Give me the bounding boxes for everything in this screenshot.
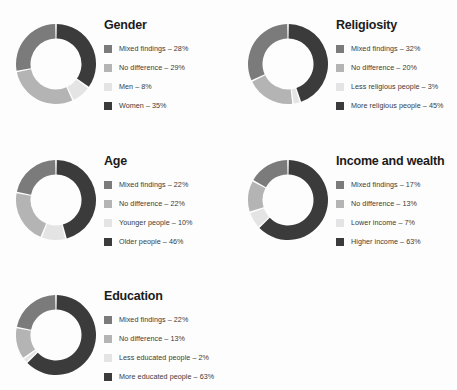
legend-swatch-less-educated-people: [104, 354, 112, 362]
legend-swatch-mixed-findings: [104, 181, 112, 189]
legend-label: Mixed findings – 22%: [119, 315, 188, 324]
chart-title: Religiosity: [336, 18, 443, 32]
legend-swatch-higher-income: [336, 238, 344, 246]
legend-label: No difference – 13%: [119, 334, 185, 343]
donut-segment: [16, 24, 55, 71]
legend-item: No difference – 13%: [336, 194, 444, 213]
legend-swatch-no-difference: [336, 200, 344, 208]
legend-label: No difference – 29%: [119, 63, 185, 72]
legend-item: Men – 8%: [104, 77, 188, 96]
donut-segment: [248, 24, 287, 80]
legend-income-and-wealth: Income and wealth Mixed findings – 17% N…: [336, 150, 444, 251]
donut-chart-gender: [8, 14, 104, 126]
legend-item: Less religious people – 3%: [336, 77, 443, 96]
legend-item: Higher income – 63%: [336, 232, 444, 251]
legend-swatch-mixed-findings: [104, 316, 112, 324]
legend-swatch-women: [104, 102, 112, 110]
legend-label: Less religious people – 3%: [351, 82, 438, 91]
legend-label: Women – 35%: [119, 101, 167, 110]
donut-segment: [253, 160, 287, 187]
legend-item: Older people – 46%: [104, 232, 192, 251]
legend-swatch-more-educated-people: [104, 373, 112, 381]
legend-item: No difference – 22%: [104, 194, 192, 213]
legend-label: More educated people – 63%: [119, 372, 214, 381]
donut-segment: [17, 69, 72, 104]
donut-segment: [248, 181, 265, 211]
donut-chart-education: [8, 285, 104, 390]
chart-title: Income and wealth: [336, 154, 444, 168]
donut-chart-grid: Gender Mixed findings – 28% No differenc…: [0, 0, 457, 390]
legend-item: Younger people – 10%: [104, 213, 192, 232]
legend-item: Mixed findings – 22%: [104, 175, 192, 194]
legend-swatch-mixed-findings: [104, 45, 112, 53]
legend-label: No difference – 22%: [119, 199, 185, 208]
legend-item: Mixed findings – 17%: [336, 175, 444, 194]
legend-gender: Gender Mixed findings – 28% No differenc…: [104, 14, 188, 115]
donut-segment: [17, 160, 56, 195]
legend-swatch-no-difference: [104, 64, 112, 72]
legend-item: More religious people – 45%: [336, 96, 443, 115]
legend-swatch-men: [104, 83, 112, 91]
chart-panel-education: Education Mixed findings – 22% No differ…: [8, 285, 214, 390]
legend-item: Mixed findings – 28%: [104, 39, 188, 58]
chart-panel-age: Age Mixed findings – 22% No difference –…: [8, 150, 192, 262]
donut-graphic: [14, 293, 98, 377]
legend-label: Older people – 46%: [119, 237, 183, 246]
legend-label: More religious people – 45%: [351, 101, 443, 110]
chart-title: Age: [104, 154, 192, 168]
legend-education: Education Mixed findings – 22% No differ…: [104, 285, 214, 386]
legend-swatch-no-difference: [104, 200, 112, 208]
donut-segment: [42, 224, 65, 240]
legend-label: Mixed findings – 28%: [119, 44, 188, 53]
legend-item: Mixed findings – 22%: [104, 310, 214, 329]
donut-segment: [17, 295, 56, 330]
legend-item: No difference – 20%: [336, 58, 443, 77]
legend-swatch-more-religious-people: [336, 102, 344, 110]
legend-label: Higher income – 63%: [351, 237, 421, 246]
legend-label: No difference – 13%: [351, 199, 417, 208]
legend-label: Mixed findings – 17%: [351, 180, 420, 189]
chart-title: Education: [104, 289, 214, 303]
legend-age: Age Mixed findings – 22% No difference –…: [104, 150, 192, 251]
donut-chart-religiosity: [240, 14, 336, 126]
legend-item: More educated people – 63%: [104, 367, 214, 386]
donut-segment: [57, 160, 96, 239]
legend-swatch-younger-people: [104, 219, 112, 227]
donut-graphic: [14, 158, 98, 242]
donut-segment: [57, 24, 96, 87]
legend-label: Mixed findings – 22%: [119, 180, 188, 189]
legend-label: Mixed findings – 32%: [351, 44, 420, 53]
legend-item: Mixed findings – 32%: [336, 39, 443, 58]
legend-swatch-mixed-findings: [336, 181, 344, 189]
legend-item: Lower income – 7%: [336, 213, 444, 232]
legend-swatch-no-difference: [336, 64, 344, 72]
donut-chart-income-and-wealth: [240, 150, 336, 262]
chart-title: Gender: [104, 18, 188, 32]
donut-segment: [252, 75, 292, 104]
legend-swatch-older-people: [104, 238, 112, 246]
donut-segment: [16, 193, 46, 237]
legend-label: Men – 8%: [119, 82, 152, 91]
chart-panel-religiosity: Religiosity Mixed findings – 32% No diff…: [240, 14, 443, 126]
legend-item: No difference – 13%: [104, 329, 214, 348]
legend-item: No difference – 29%: [104, 58, 188, 77]
legend-religiosity: Religiosity Mixed findings – 32% No diff…: [336, 14, 443, 115]
donut-chart-age: [8, 150, 104, 262]
legend-swatch-no-difference: [104, 335, 112, 343]
donut-graphic: [246, 158, 330, 242]
donut-graphic: [246, 22, 330, 106]
legend-item: Less educated people – 2%: [104, 348, 214, 367]
legend-swatch-lower-income: [336, 219, 344, 227]
legend-label: No difference – 20%: [351, 63, 417, 72]
donut-graphic: [14, 22, 98, 106]
legend-label: Less educated people – 2%: [119, 353, 209, 362]
legend-swatch-mixed-findings: [336, 45, 344, 53]
legend-label: Lower income – 7%: [351, 218, 415, 227]
legend-label: Younger people – 10%: [119, 218, 192, 227]
legend-item: Women – 35%: [104, 96, 188, 115]
legend-swatch-less-religious-people: [336, 83, 344, 91]
chart-panel-income-and-wealth: Income and wealth Mixed findings – 17% N…: [240, 150, 444, 262]
chart-panel-gender: Gender Mixed findings – 28% No differenc…: [8, 14, 188, 126]
